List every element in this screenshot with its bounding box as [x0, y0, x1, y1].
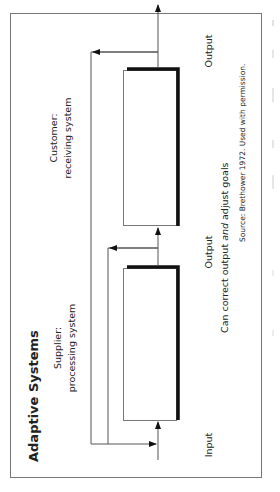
diagram-canvas: Adaptive Systems Supplier: processing sy… — [0, 0, 280, 492]
supplier-label: Supplier: processing system — [52, 304, 77, 393]
output-label-supplier: Output — [203, 235, 214, 268]
svg-text:processing system: processing system — [66, 304, 77, 393]
source-note: Source: Brethower 1972. Used with permis… — [238, 64, 247, 243]
caption: Can correct output and adjust goals — [219, 162, 230, 333]
bleed-through-text — [272, 20, 274, 336]
svg-text:Customer:: Customer: — [48, 113, 59, 162]
svg-text:receiving system: receiving system — [62, 98, 73, 179]
customer-label: Customer: receiving system — [48, 98, 73, 179]
supplier-system-box — [124, 267, 179, 421]
output-label-customer: Output — [203, 34, 214, 67]
svg-text:Supplier:: Supplier: — [52, 327, 63, 369]
customer-system-box — [124, 69, 179, 226]
input-label: Input — [203, 432, 214, 457]
diagram-title: Adaptive Systems — [26, 330, 41, 462]
